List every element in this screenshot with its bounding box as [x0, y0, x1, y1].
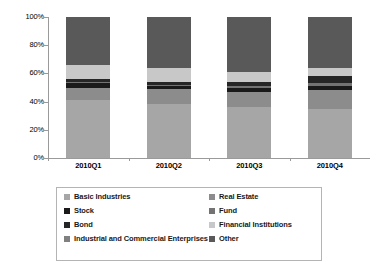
y-axis-tick-mark: [44, 17, 48, 18]
legend-item[interactable]: Financial Institutions: [209, 220, 319, 230]
bar-slot: [290, 17, 371, 158]
legend-item-label: Financial Institutions: [219, 220, 292, 230]
stacked-bar[interactable]: [308, 17, 352, 158]
x-axis-labels: 2010Q12010Q22010Q32010Q4: [48, 160, 370, 174]
legend-item[interactable]: Industrial and Commercial Enterprises: [64, 234, 209, 244]
x-axis-tick-label: 2010Q4: [290, 160, 371, 171]
chart-root: 100%80%60%40%20%0% 2010Q12010Q22010Q3201…: [0, 0, 376, 269]
chart-legend: Basic IndustriesStockBondIndustrial and …: [56, 187, 322, 261]
legend-swatch-icon: [64, 194, 70, 200]
legend-swatch-icon: [64, 222, 70, 228]
legend-swatch-icon: [209, 236, 215, 242]
stacked-bar[interactable]: [66, 17, 110, 158]
y-axis-tick-mark: [44, 130, 48, 131]
legend-item[interactable]: Other: [209, 234, 319, 244]
bar-segment[interactable]: [66, 88, 110, 101]
x-axis-tick-mark: [290, 158, 291, 161]
bar-segment[interactable]: [308, 76, 352, 83]
legend-column-left: Basic IndustriesStockBondIndustrial and …: [64, 192, 209, 248]
legend-item-label: Basic Industries: [74, 192, 130, 202]
bar-segment[interactable]: [66, 17, 110, 65]
x-axis-tick-label: 2010Q3: [209, 160, 290, 171]
bar-segment[interactable]: [227, 92, 271, 108]
stacked-bar[interactable]: [227, 17, 271, 158]
legend-swatch-icon: [209, 222, 215, 228]
legend-item[interactable]: Bond: [64, 220, 209, 230]
legend-item-label: Fund: [219, 206, 237, 216]
stacked-bar[interactable]: [147, 17, 191, 158]
y-axis-tick-mark: [44, 73, 48, 74]
x-axis-tick-mark: [209, 158, 210, 161]
legend-item[interactable]: Basic Industries: [64, 192, 209, 202]
bar-segment[interactable]: [66, 100, 110, 158]
legend-item-label: Industrial and Commercial Enterprises: [74, 234, 208, 244]
bar-segment[interactable]: [147, 89, 191, 105]
y-axis-tick-label: 60%: [4, 69, 44, 77]
bar-segment[interactable]: [308, 109, 352, 158]
x-axis-tick-mark: [48, 158, 49, 161]
bar-segment[interactable]: [227, 72, 271, 82]
legend-item[interactable]: Real Estate: [209, 192, 319, 202]
bar-segment[interactable]: [147, 104, 191, 158]
legend-swatch-icon: [64, 208, 70, 214]
plot-area: 100%80%60%40%20%0% 2010Q12010Q22010Q3201…: [0, 0, 376, 182]
bar-segment[interactable]: [308, 68, 352, 76]
y-axis-tick-mark: [44, 102, 48, 103]
bar-segment[interactable]: [147, 68, 191, 82]
bars-container: [48, 17, 370, 158]
bar-segment[interactable]: [308, 17, 352, 68]
y-axis-tick-label: 40%: [4, 98, 44, 106]
legend-item-label: Other: [219, 234, 239, 244]
y-axis-tick-label: 80%: [4, 41, 44, 49]
y-axis-tick-label: 0%: [4, 154, 44, 162]
bar-slot: [209, 17, 290, 158]
y-axis-labels: 100%80%60%40%20%0%: [0, 0, 44, 182]
legend-item-label: Stock: [74, 206, 94, 216]
legend-swatch-icon: [209, 194, 215, 200]
legend-item[interactable]: Fund: [209, 206, 319, 216]
x-axis-tick-label: 2010Q2: [129, 160, 210, 171]
legend-item-label: Real Estate: [219, 192, 258, 202]
y-axis-tick-label: 100%: [4, 13, 44, 21]
y-axis-tick-mark: [44, 45, 48, 46]
bar-segment[interactable]: [227, 17, 271, 72]
x-axis-tick-label: 2010Q1: [48, 160, 129, 171]
legend-item[interactable]: Stock: [64, 206, 209, 216]
legend-item-label: Bond: [74, 220, 93, 230]
legend-swatch-icon: [209, 208, 215, 214]
bar-slot: [48, 17, 129, 158]
legend-column-right: Real EstateFundFinancial InstitutionsOth…: [209, 192, 319, 248]
bar-segment[interactable]: [147, 17, 191, 68]
x-axis-tick-mark: [129, 158, 130, 161]
bar-segment[interactable]: [227, 107, 271, 158]
bar-slot: [129, 17, 210, 158]
bar-segment[interactable]: [66, 65, 110, 79]
legend-swatch-icon: [64, 236, 70, 242]
y-axis-tick-label: 20%: [4, 126, 44, 134]
bar-segment[interactable]: [308, 90, 352, 108]
